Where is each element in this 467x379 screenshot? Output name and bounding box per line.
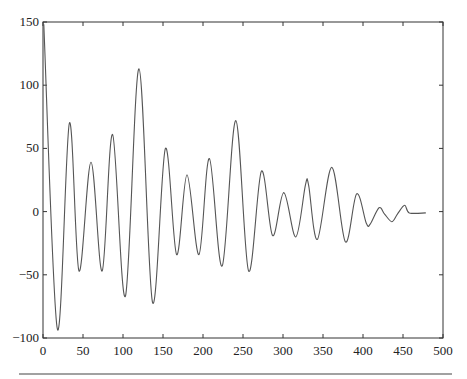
x-tick-label: 300: [273, 343, 293, 358]
x-axis-ticks: 050100150200250300350400450500: [40, 22, 453, 358]
x-tick-label: 400: [353, 343, 373, 358]
x-tick-label: 0: [40, 343, 47, 358]
x-tick-label: 50: [77, 343, 90, 358]
y-tick-label: 100: [20, 77, 40, 92]
x-tick-label: 150: [153, 343, 173, 358]
y-tick-label: 0: [33, 204, 40, 219]
axes-box: [43, 22, 443, 338]
y-axis-ticks: 150100500−50−100: [12, 14, 443, 345]
x-tick-label: 450: [393, 343, 413, 358]
line-chart: 050100150200250300350400450500 150100500…: [0, 0, 467, 379]
y-tick-label: 50: [26, 140, 39, 155]
signal-line: [44, 25, 426, 331]
y-tick-label: −100: [12, 330, 39, 345]
y-tick-label: 150: [20, 14, 40, 29]
x-tick-label: 500: [433, 343, 453, 358]
x-tick-label: 350: [313, 343, 333, 358]
plot-frame: [43, 22, 443, 338]
x-tick-label: 100: [113, 343, 133, 358]
y-tick-label: −50: [19, 267, 39, 282]
x-tick-label: 250: [233, 343, 253, 358]
x-tick-label: 200: [193, 343, 213, 358]
